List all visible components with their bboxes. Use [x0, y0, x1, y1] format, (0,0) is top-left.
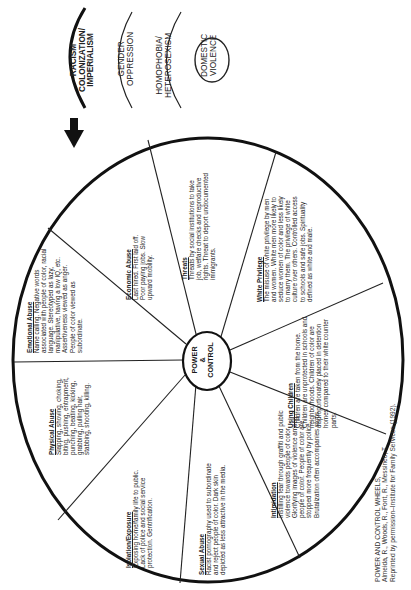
down-arrow-icon — [64, 118, 84, 148]
segment-intimidation: IntimidationInstilling fear through graf… — [270, 406, 320, 518]
legend-domestic-violence: DOMESTIC VIOLENCE — [201, 34, 218, 77]
center-label: POWER & CONTROL — [191, 332, 215, 388]
segment-white-privilege: White PrivilegeThe misuse of white privi… — [256, 190, 313, 302]
legend-homophobia: HOMOPHOBIA/ HETEROSEXISM — [156, 33, 173, 98]
legend-racism: RACISM COLONIZATION/ IMPERIALISM — [70, 28, 96, 92]
segment-sexual-abuse: Sexual AbuseRacist pornography used to s… — [198, 463, 226, 575]
legend-gender: GENDER OPPRESSION — [118, 32, 135, 86]
segment-emotional-abuse: Emotional AbuseName calling. Negative wo… — [26, 247, 83, 353]
citation: POWER AND CONTROL WHEELS, Almeida, R., W… — [374, 404, 396, 582]
segment-physical-abuse: Physical AbuseSlapping, shoving, choking… — [48, 370, 91, 455]
segment-economic-abuse: Economic AbuseLast hired. First laid off… — [125, 220, 153, 300]
segment-isolation-exposure: Isolation/ExposureExposing home/family l… — [125, 468, 153, 568]
segment-threats: ThreatsThreats by social institutions to… — [181, 170, 216, 280]
